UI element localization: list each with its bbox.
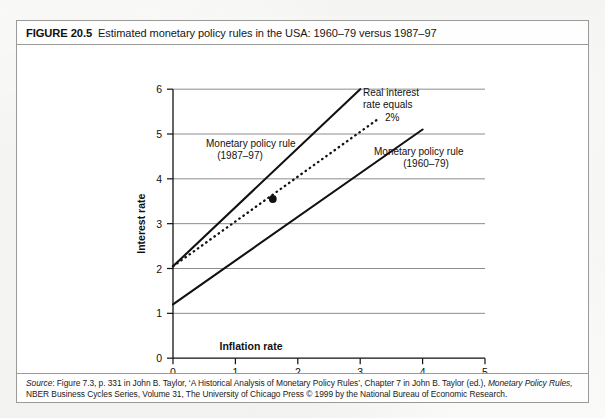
annotation-rule-1987-97-line-2: (1987–97) bbox=[217, 150, 263, 161]
gridlines bbox=[173, 89, 485, 313]
plot-panel: 6 5 4 3 2 1 0 0 1 2 3 4 5 bbox=[17, 45, 588, 374]
y-tick-0: 0 bbox=[156, 352, 162, 364]
source-label: Source bbox=[26, 378, 52, 388]
source-line-1-italic: Monetary Policy Rules, bbox=[488, 378, 573, 388]
y-tick-1: 1 bbox=[156, 307, 162, 319]
figure-caption: Estimated monetary policy rules in the U… bbox=[98, 27, 437, 39]
annotation-real-interest-line-2: rate equals bbox=[363, 99, 412, 110]
annotation-real-interest-line-3: 2% bbox=[385, 112, 400, 123]
y-axis-title: Interest rate bbox=[135, 193, 147, 253]
y-tick-6: 6 bbox=[156, 83, 162, 95]
equilibrium-point-marker bbox=[269, 195, 277, 203]
source-line-1: Source: Figure 7.3, p. 331 in John B. Ta… bbox=[26, 378, 579, 389]
source-line-2: NBER Business Cycles Series, Volume 31, … bbox=[26, 389, 579, 400]
source-line-1-text: : Figure 7.3, p. 331 in John B. Taylor, … bbox=[52, 378, 488, 388]
y-tick-5: 5 bbox=[156, 128, 162, 140]
figure-title-bar: FIGURE 20.5 Estimated monetary policy ru… bbox=[17, 21, 588, 45]
y-tick-4: 4 bbox=[156, 173, 162, 185]
x-axis-title-label: Inflation rate bbox=[219, 340, 282, 352]
annotation-rule-1987-97-line-1: Monetary policy rule bbox=[206, 138, 296, 149]
figure-source-note: Source: Figure 7.3, p. 331 in John B. Ta… bbox=[17, 373, 588, 402]
annotation-real-interest: Real interest rate equals 2% bbox=[363, 87, 419, 123]
annotation-rule-1960-79-line-2: (1960–79) bbox=[403, 158, 449, 169]
y-tick-labels: 6 5 4 3 2 1 0 bbox=[156, 83, 162, 364]
annotation-rule-1960-79-line-1: Monetary policy rule bbox=[374, 146, 464, 157]
y-tick-3: 3 bbox=[156, 218, 162, 230]
figure-box: FIGURE 20.5 Estimated monetary policy ru… bbox=[16, 20, 589, 403]
y-axis-ticks bbox=[167, 89, 173, 358]
monetary-policy-rules-chart: 6 5 4 3 2 1 0 0 1 2 3 4 5 bbox=[17, 45, 588, 374]
y-tick-2: 2 bbox=[156, 263, 162, 275]
annotation-rule-1960-79: Monetary policy rule (1960–79) bbox=[374, 146, 464, 169]
scanned-page: FIGURE 20.5 Estimated monetary policy ru… bbox=[0, 0, 605, 418]
annotation-real-interest-line-1: Real interest bbox=[363, 87, 419, 98]
x-axis-ticks bbox=[173, 358, 485, 364]
figure-number: FIGURE 20.5 bbox=[26, 27, 92, 39]
annotation-rule-1987-97: Monetary policy rule (1987–97) bbox=[206, 138, 296, 161]
